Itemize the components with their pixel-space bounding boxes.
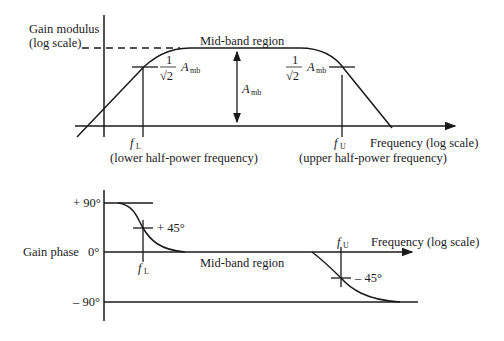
svg-text:f: f bbox=[334, 136, 339, 150]
magnitude-y-label-line1: Gain modulus bbox=[29, 22, 100, 36]
fL-caption: (lower half-power frequency) bbox=[110, 151, 258, 165]
tick-plus90: + 90° bbox=[73, 196, 101, 210]
phase-plot: + 90° Gain phase 0° – 90° + 45° – 45° f … bbox=[23, 190, 479, 321]
fU-caption: (upper half-power frequency) bbox=[299, 151, 447, 165]
magnitude-region-label: Mid-band region bbox=[200, 34, 285, 48]
gain-magnitude-curve bbox=[77, 48, 392, 137]
svg-text:L: L bbox=[144, 267, 149, 276]
svg-text:U: U bbox=[343, 241, 349, 250]
svg-text:A: A bbox=[306, 60, 315, 74]
magnitude-y-label-line2: (log scale) bbox=[29, 36, 81, 50]
svg-text:U: U bbox=[340, 142, 346, 151]
amb-label: A mb bbox=[241, 82, 261, 97]
fL-label: f L bbox=[130, 136, 141, 151]
svg-text:f: f bbox=[337, 235, 342, 249]
svg-text:1: 1 bbox=[292, 53, 298, 67]
svg-text:f: f bbox=[138, 261, 143, 275]
fU-label: f U bbox=[334, 136, 346, 151]
minus45-label: – 45° bbox=[354, 271, 382, 285]
plus45-label: + 45° bbox=[157, 221, 185, 235]
svg-text:f: f bbox=[130, 136, 135, 150]
svg-text:mb: mb bbox=[251, 88, 261, 97]
frequency-response-diagram: Gain modulus (log scale) Mid-band region… bbox=[0, 0, 504, 341]
phase-fU-label: f U bbox=[337, 235, 349, 250]
svg-text:1: 1 bbox=[166, 53, 172, 67]
svg-text:mb: mb bbox=[190, 66, 200, 75]
svg-text:A: A bbox=[241, 82, 250, 96]
svg-text:√2: √2 bbox=[160, 69, 173, 83]
fL-half-power-label: 1 √2 A mb bbox=[160, 53, 200, 83]
phase-y-label: Gain phase bbox=[23, 245, 79, 259]
tick-zero: 0° bbox=[88, 245, 99, 259]
svg-text:L: L bbox=[136, 142, 141, 151]
svg-text:A: A bbox=[180, 60, 189, 74]
phase-x-label: Frequency (log scale) bbox=[371, 235, 479, 249]
svg-text:mb: mb bbox=[316, 66, 326, 75]
phase-fL-label: f L bbox=[138, 261, 149, 276]
magnitude-plot: Gain modulus (log scale) Mid-band region… bbox=[29, 15, 478, 165]
fU-half-power-label: 1 √2 A mb bbox=[286, 53, 326, 83]
tick-minus90: – 90° bbox=[72, 295, 100, 309]
phase-region-label: Mid-band region bbox=[200, 256, 285, 270]
svg-text:√2: √2 bbox=[286, 69, 299, 83]
magnitude-x-label: Frequency (log scale) bbox=[370, 136, 478, 150]
